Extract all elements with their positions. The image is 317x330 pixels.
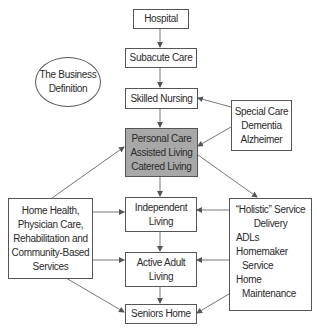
- node-holistic-service: “Holistic” Service Delivery ADLs Homemak…: [229, 198, 312, 311]
- node-holistic-service-line-5: Service: [236, 259, 273, 273]
- node-seniors-home: Seniors Home: [125, 304, 197, 324]
- node-holistic-service-line-6: Home: [236, 273, 261, 287]
- node-hospital: Hospital: [133, 9, 189, 29]
- node-business-definition: The Business Definition: [35, 57, 101, 107]
- node-home-health-line-3: Rehabilitation and: [13, 232, 88, 246]
- node-holistic-service-line-2: Delivery: [254, 217, 288, 231]
- node-active-adult-living-line-1: Active Adult: [137, 256, 186, 270]
- node-business-definition-line-2: Definition: [49, 82, 88, 96]
- node-independent-living: Independent Living: [125, 197, 197, 232]
- node-personal-care-line-1: Personal Care: [131, 132, 191, 146]
- node-business-definition-line-1: The Business: [40, 68, 97, 82]
- node-special-care: Special Care Dementia Alzheimer: [231, 100, 292, 151]
- node-subacute-care: Subacute Care: [125, 48, 197, 68]
- node-home-health-line-5: Services: [33, 260, 69, 274]
- edge-special-personal: [198, 127, 231, 146]
- node-independent-living-line-2: Living: [149, 215, 173, 229]
- node-home-health: Home Health, Physician Care, Rehabilitat…: [8, 198, 93, 279]
- node-home-health-line-4: Community-Based: [12, 246, 90, 260]
- node-special-care-line-1: Special Care: [235, 105, 289, 119]
- node-personal-care-line-2: Assisted Living: [130, 146, 192, 160]
- node-holistic-service-line-1: “Holistic” Service: [236, 203, 306, 217]
- node-skilled-nursing-label: Skilled Nursing: [130, 92, 192, 106]
- node-skilled-nursing: Skilled Nursing: [125, 88, 198, 109]
- node-seniors-home-label: Seniors Home: [131, 307, 191, 321]
- edge-homehealth-seniors: [66, 278, 124, 312]
- node-holistic-service-line-7: Maintenance: [236, 287, 296, 301]
- node-special-care-line-2: Dementia: [241, 119, 281, 133]
- node-holistic-service-line-4: Homemaker: [236, 245, 288, 259]
- node-active-adult-living-line-2: Living: [149, 270, 173, 284]
- edge-personal-holistic: [198, 155, 257, 197]
- node-personal-care-line-3: Catered Living: [131, 160, 191, 174]
- node-home-health-line-1: Home Health,: [22, 204, 80, 218]
- node-active-adult-living: Active Adult Living: [125, 252, 197, 287]
- edge-homehealth-personal: [52, 147, 124, 198]
- edge-holistic-seniors: [197, 294, 229, 313]
- node-personal-care: Personal Care Assisted Living Catered Li…: [125, 128, 198, 177]
- node-holistic-service-line-3: ADLs: [236, 231, 259, 245]
- node-subacute-care-label: Subacute Care: [130, 51, 193, 65]
- edge-special-skilled: [198, 98, 231, 107]
- node-home-health-line-2: Physician Care,: [18, 218, 84, 232]
- node-independent-living-line-1: Independent: [135, 201, 187, 215]
- node-hospital-label: Hospital: [144, 12, 178, 26]
- node-special-care-line-3: Alzheimer: [241, 133, 283, 147]
